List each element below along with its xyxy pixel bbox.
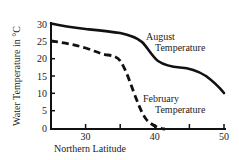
x-axis-title: Northern Latitude <box>54 143 126 154</box>
august-label-line1: August <box>146 31 175 42</box>
y-tick-label: 5 <box>42 105 47 116</box>
temperature-latitude-chart: 30 25 20 15 10 5 0 30 40 50 Northern Lat… <box>0 0 239 160</box>
y-tick-label: 15 <box>37 71 47 82</box>
y-tick-label: 10 <box>37 88 47 99</box>
february-temperature-line <box>51 41 165 129</box>
y-tick-label: 20 <box>37 53 47 64</box>
x-tick-label: 50 <box>219 131 229 142</box>
august-annotation: August Temperature <box>146 31 206 53</box>
february-annotation: February Temperature <box>143 93 206 115</box>
x-tick-label: 40 <box>150 131 160 142</box>
y-tick-label: 0 <box>42 123 47 134</box>
x-tick-label: 30 <box>81 131 91 142</box>
y-axis-title: Water Temperature in °C <box>11 26 22 126</box>
x-tick-labels: 30 40 50 <box>81 131 229 142</box>
y-tick-label: 30 <box>37 19 47 30</box>
y-tick-labels: 30 25 20 15 10 5 0 <box>37 19 47 134</box>
y-tick-label: 25 <box>37 36 47 47</box>
august-label-line2: Temperature <box>155 42 206 53</box>
august-temperature-line <box>51 24 224 94</box>
february-label-line1: February <box>143 93 179 104</box>
february-label-line2: Temperature <box>155 104 206 115</box>
